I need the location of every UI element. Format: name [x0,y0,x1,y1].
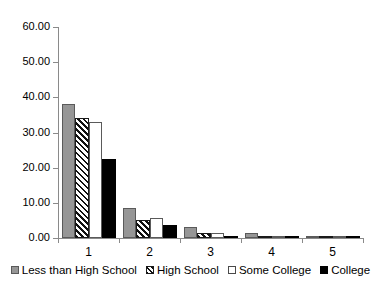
bar [333,236,347,238]
legend-swatch-icon [228,266,236,274]
y-axis-tick-label: 50.00 [0,56,50,67]
y-axis-tick-label: 20.00 [0,162,50,173]
y-axis-tick-labels: 0.0010.0020.0030.0040.0050.0060.00 [0,0,50,295]
bar [150,218,164,238]
x-axis-tick-label: 2 [130,245,170,259]
bar [89,122,103,238]
x-axis-tick-label: 5 [313,245,353,259]
bar [346,236,360,238]
bar [102,159,116,238]
x-axis-tick-label: 1 [69,245,109,259]
x-axis-tick-label: 3 [191,245,231,259]
chart-legend: Less than High SchoolHigh SchoolSome Col… [0,264,381,276]
x-axis-tick-label: 4 [252,245,292,259]
bar [258,236,272,238]
legend-item: High School [146,264,219,276]
x-axis-tick [241,238,242,243]
bar [306,236,320,238]
bar [272,236,286,238]
legend-label: Some College [239,264,311,276]
legend-swatch-icon [11,266,19,274]
bar [163,225,177,238]
x-axis-tick [302,238,303,243]
legend-swatch-icon [320,266,328,274]
y-axis-tick-label: 40.00 [0,91,50,102]
y-axis-tick-label: 0.00 [0,232,50,243]
x-axis-tick [363,238,364,243]
legend-label: College [331,264,370,276]
bar [319,236,333,238]
legend-item: Some College [228,264,311,276]
bar-chart: 0.0010.0020.0030.0040.0050.0060.00 12345… [0,0,381,295]
x-axis-tick [180,238,181,243]
y-axis-tick-label: 60.00 [0,21,50,32]
bar [184,227,198,238]
x-axis-line [58,238,363,239]
y-axis-tick-label: 10.00 [0,197,50,208]
legend-item: Less than High School [11,264,137,276]
bar [136,220,150,238]
bar [62,104,76,238]
legend-label: Less than High School [22,264,137,276]
bar [245,233,259,238]
bar [285,236,299,238]
bar [75,118,89,238]
bar [224,236,238,238]
bar [123,208,137,238]
bar [197,233,211,238]
legend-item: College [320,264,370,276]
y-axis-tick-label: 30.00 [0,127,50,138]
x-axis-tick [58,238,59,243]
plot-area [58,27,363,238]
x-axis-tick [119,238,120,243]
legend-swatch-icon [146,266,154,274]
bar [211,233,225,238]
legend-label: High School [157,264,219,276]
